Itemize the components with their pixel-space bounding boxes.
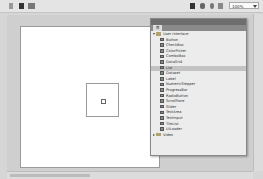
tree-label: ComboBox [166,54,185,58]
button-component-icon [160,38,164,42]
center-icon[interactable] [210,3,214,9]
progressbar-component-icon [160,88,164,92]
tree-label: ProgressBar [166,88,187,92]
tree-label: ScrollPane [166,99,185,103]
tree-label: Label [166,77,176,81]
tree-label: TextArea [166,110,182,114]
label-component-icon [160,77,164,81]
component-tree: User Interface Button CheckBox ColorPick… [151,31,246,138]
textarea-component-icon [160,111,164,115]
fit-icon[interactable] [218,3,223,9]
chevron-down-icon [253,5,257,8]
numericstepper-component-icon [160,83,164,87]
tree-label: TextInput [166,116,183,120]
slider-component-icon [160,105,164,109]
tree-label: UILoader [166,127,182,131]
back-arrow-icon[interactable] [9,3,13,9]
tree-label: Button [166,38,178,42]
selected-square[interactable] [86,83,119,117]
tilelist-component-icon [160,122,164,126]
tree-label: Dataset [166,71,180,75]
tree-label: NumericStepper [166,82,195,86]
uiloader-component-icon [160,127,164,131]
tree-folder-video[interactable]: Video [151,133,246,139]
horizontal-scrollbar[interactable] [7,171,253,179]
tree-label: RadioButton [166,94,188,98]
tree-label: DataGrid [166,60,182,64]
tree-label: ColorPicker [166,49,186,53]
zoom-value: 100% [232,4,243,9]
symbol-icon[interactable] [200,3,205,9]
zoom-select[interactable]: 100% [229,2,259,9]
colorpicker-component-icon [160,49,164,53]
combobox-component-icon [160,55,164,59]
collapse-icon[interactable] [153,134,155,136]
panel-tabs: 库 [151,25,246,31]
dataset-component-icon [160,71,164,75]
textinput-component-icon [160,116,164,120]
list-component-icon [160,66,164,70]
components-panel: 库 User Interface Button CheckBox ColorPi… [150,18,247,156]
radiobutton-component-icon [160,94,164,98]
scrollpane-component-icon [160,99,164,103]
tree-label: TileList [166,122,179,126]
symbol-edit-icon[interactable] [28,3,35,9]
stage-canvas[interactable] [20,26,160,168]
datagrid-component-icon [160,60,164,64]
tree-label: Video [163,133,173,137]
camera-icon[interactable] [190,3,195,9]
panel-tab[interactable]: 库 [153,25,162,31]
scene-icon[interactable] [19,3,24,9]
scrollbar-thumb[interactable] [10,174,90,177]
tree-label: List [166,66,172,70]
registration-point-icon [101,99,106,104]
folder-icon [156,32,161,36]
tree-label: User Interface [163,32,188,36]
tree-label: CheckBox [166,43,184,47]
expand-icon[interactable] [153,33,155,35]
folder-icon [156,133,161,137]
checkbox-component-icon [160,43,164,47]
vertical-scrollbar[interactable] [253,14,263,171]
edit-bar: 100% [0,0,263,13]
tree-label: Slider [166,105,176,109]
